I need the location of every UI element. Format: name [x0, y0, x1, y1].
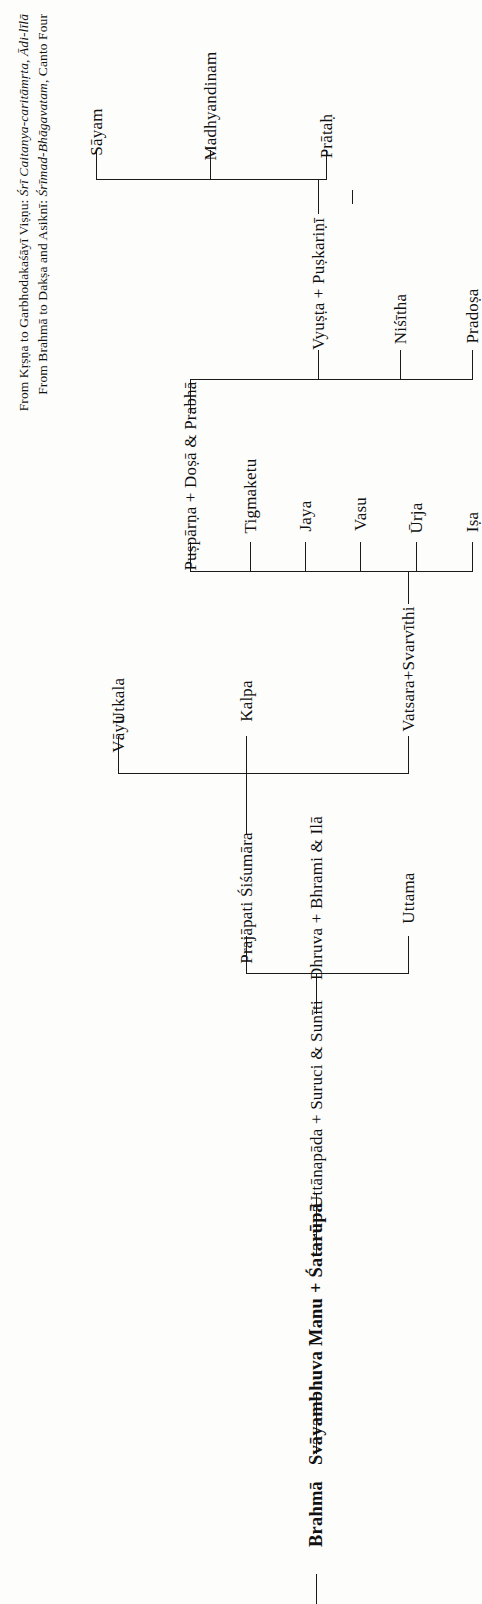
source-line-1: From Kṛṣṇa to Garbhodakaśāyī Viṣṇu: Śrī … [14, 14, 33, 411]
connector-to-vasu [360, 542, 361, 572]
node-madhyandinam: Madhyandinam [202, 51, 219, 160]
node-vatsara: Vatsara+Svarvīthi [400, 606, 417, 731]
source-line-1-title: Śrī Caitanya-caritāmṛta, Ādi-līlā [16, 14, 31, 196]
node-pradosa: Pradoṣa [464, 288, 481, 343]
source-line-1-prefix: From Kṛṣṇa to Garbhodakaśāyī Viṣṇu: [16, 196, 31, 411]
node-prajapati: Prajāpati Śiśumāra [238, 832, 255, 964]
node-jaya: Jaya [297, 500, 314, 531]
source-line-2-prefix: From Brahmā to Dakṣa and Asiknī: [35, 197, 50, 395]
node-kalpa: Kalpa [238, 680, 255, 722]
connector-root-stub [316, 1574, 317, 1604]
connector-vatsara-out [408, 572, 409, 604]
node-uttanapada: Uttānapāda + Suruci & Sunīti [308, 1000, 325, 1208]
connector-to-urja [416, 542, 417, 572]
connector-vyusta-out [318, 180, 319, 214]
node-pratah: Prātaḥ [318, 114, 335, 159]
connector-to-uttama [408, 936, 409, 974]
connector-to-kalpa [246, 736, 247, 774]
node-vasu: Vasu [352, 497, 369, 531]
connector-to-tigmaketu [250, 542, 251, 572]
connector-to-jaya [305, 542, 306, 572]
connector-dhruva-split [118, 773, 408, 774]
node-svayambhuva: Svāyambhuva Manu + Śatarūpā [307, 1203, 326, 1465]
source-line-2: From Brahmā to Dakṣa and Asiknī: Śrīmad-… [33, 14, 52, 395]
connector-uttanapada-split [246, 973, 408, 974]
connector-to-vatsara [408, 736, 409, 774]
node-utkala: Utkala [110, 678, 127, 725]
connector-prajapati-vayu [246, 774, 247, 834]
node-nisitha: Niśītha [392, 294, 409, 345]
node-urja: Ūrja [408, 502, 425, 533]
connector-pusparna-in [190, 571, 250, 572]
node-sayam: Sāyam [88, 108, 105, 155]
connector-vatsara-sons-spine [250, 571, 472, 572]
node-brahma: Brahmā [307, 1481, 326, 1547]
node-vyusta: Vyuṣṭa + Puṣkariṇī [310, 218, 327, 350]
connector-to-vyusta [318, 350, 319, 380]
chart-canvas: From Kṛṣṇa to Garbhodakaśāyī Viṣṇu: Śrī … [0, 0, 482, 1604]
node-dhruva: Dhruva + Bhrami & Ilā [308, 816, 325, 980]
node-tigmaketu: Tigmaketu [242, 459, 259, 534]
source-line-2-title: Śrīmad-Bhāgavatam [35, 83, 50, 196]
connector-to-pradosa [472, 350, 473, 380]
node-pusparna: Puṣpārṇa + Doṣā & Prabhā [182, 381, 199, 570]
connector-vyusta-sons-spine [96, 179, 326, 180]
connector-pusparna-sons-spine [190, 379, 472, 380]
connector-to-isa [472, 542, 473, 572]
node-isa: Iṣa [464, 512, 481, 532]
connector-vyusta-tick [352, 190, 353, 204]
connector-to-nisitha [400, 350, 401, 380]
node-uttama: Uttama [400, 872, 417, 923]
source-line-2-suffix: , Canto Four [35, 14, 50, 83]
